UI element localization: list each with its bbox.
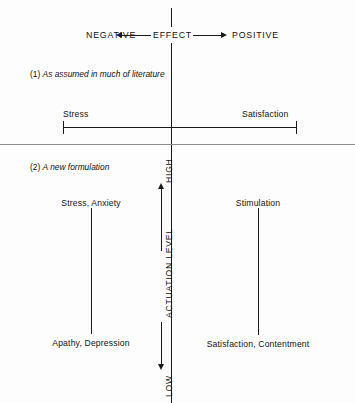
negative-quadrant-bar (91, 208, 92, 334)
section-2-caption-text: A new formulation (43, 162, 110, 172)
section-2-caption: (2) A new formulation (30, 163, 109, 171)
section-1-caption: (1) As assumed in much of literature (30, 70, 165, 78)
section-1-scale-left-endcap (63, 121, 64, 134)
section-1-scale-right-label: Satisfaction (242, 110, 289, 119)
effect-axis-right-arrowhead (221, 32, 227, 38)
section-2-caption-number: (2) (30, 162, 40, 172)
actuation-axis-low-label: LOW (165, 375, 174, 397)
effect-axis-center-label: EFFECT (153, 31, 192, 40)
section-1-caption-text: As assumed in much of literature (43, 69, 165, 79)
section-1-scale-right-endcap (296, 121, 297, 134)
section-1-scale-left-label: Stress (63, 110, 88, 119)
actuation-axis-name-label: ACTUATION LEVEL (165, 228, 174, 318)
positive-quadrant-bar (258, 208, 259, 335)
effect-axis-left-shaft (122, 35, 151, 36)
section-1-scale-bar (63, 127, 297, 128)
section-1-caption-number: (1) (30, 69, 40, 79)
effect-actuation-level-diagram: NEGATIVE EFFECT POSITIVE (1) As assumed … (0, 0, 355, 403)
actuation-axis-lower-shaft (161, 322, 162, 366)
center-axis-line-top (171, 8, 172, 27)
quadrant-negative-high-label: Stress, Anxiety (61, 199, 120, 208)
section-separator-line (0, 144, 355, 145)
actuation-axis-down-arrowhead (158, 364, 164, 370)
effect-axis-positive-label: POSITIVE (232, 31, 279, 40)
center-axis-line-section1 (171, 43, 172, 144)
quadrant-positive-high-label: Stimulation (236, 199, 280, 208)
actuation-axis-upper-shaft (161, 189, 162, 251)
effect-axis-right-shaft (193, 35, 222, 36)
quadrant-negative-low-label: Apathy, Depression (52, 339, 129, 348)
actuation-axis-high-label: HIGH (165, 158, 174, 183)
quadrant-positive-low-label: Satisfaction, Contentment (207, 340, 310, 349)
